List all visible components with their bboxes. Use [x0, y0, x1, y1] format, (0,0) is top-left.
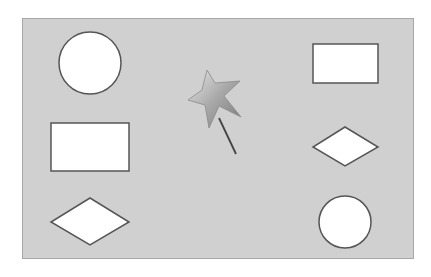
rectangle-shape-top-right[interactable] — [313, 44, 378, 83]
circle-shape-bottom-right[interactable] — [319, 196, 371, 248]
circle-shape-top-left[interactable] — [59, 32, 121, 94]
shapes-layer — [0, 0, 431, 277]
magic-wand-icon — [188, 70, 241, 154]
diamond-shape-bottom-left[interactable] — [51, 198, 129, 245]
rectangle-shape-middle-left[interactable] — [51, 123, 129, 171]
diamond-shape-middle-right[interactable] — [313, 127, 378, 166]
